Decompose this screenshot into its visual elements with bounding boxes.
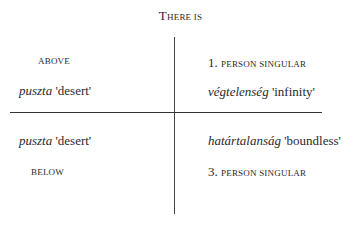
top-right-person-label: 1. PERSON SINGULAR xyxy=(208,55,306,71)
bottom-right-word-entry: határtalanság 'boundless' xyxy=(208,133,341,149)
bottom-left-word-entry: puszta 'desert' xyxy=(19,133,91,149)
person-number: 3. xyxy=(208,164,218,179)
hungarian-word: határtalanság xyxy=(208,133,281,148)
label-below: BELOW xyxy=(31,167,64,177)
gloss: 'desert' xyxy=(55,83,91,98)
horizontal-axis-line xyxy=(10,112,322,113)
title-rest: HERE IS xyxy=(167,12,202,22)
top-right-word-entry: végtelenség 'infinity' xyxy=(208,84,315,100)
vertical-axis-line xyxy=(174,37,175,214)
hungarian-word: puszta xyxy=(19,133,52,148)
person-number: 1. xyxy=(208,55,218,70)
gloss: 'boundless' xyxy=(284,133,341,148)
bottom-right-person-label: 3. PERSON SINGULAR xyxy=(208,164,306,180)
diagram-title: THERE IS xyxy=(0,8,361,24)
person-text: PERSON SINGULAR xyxy=(221,168,306,178)
label-above: ABOVE xyxy=(38,56,70,66)
hungarian-word: puszta xyxy=(19,83,52,98)
top-left-word-entry: puszta 'desert' xyxy=(19,83,91,99)
gloss: 'infinity' xyxy=(272,84,315,99)
gloss: 'desert' xyxy=(55,133,91,148)
person-text: PERSON SINGULAR xyxy=(221,59,306,69)
hungarian-word: végtelenség xyxy=(208,84,269,99)
title-initial: T xyxy=(159,8,167,23)
